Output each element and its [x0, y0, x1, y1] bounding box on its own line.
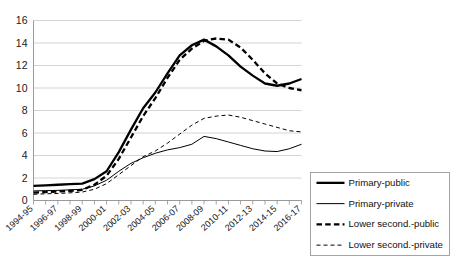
- series-line-primary-public: [34, 40, 302, 186]
- y-axis-tick-label: 4: [22, 149, 28, 161]
- y-axis-tick-label: 2: [22, 172, 28, 184]
- y-axis-tick-label: 16: [16, 14, 28, 26]
- y-axis-tick-label: 14: [16, 37, 28, 49]
- x-axis-tick-label: 2008-09: [174, 204, 205, 234]
- y-axis-tick-label: 12: [16, 59, 28, 71]
- legend-label: Primary-public: [349, 177, 411, 188]
- line-chart: 0246810121416 1994-951996-971998-992000-…: [0, 0, 453, 262]
- series-line-lower-second-private: [34, 115, 302, 194]
- gridlines-group: [34, 21, 302, 205]
- series-line-lower-second-public: [34, 39, 302, 193]
- y-axis-tick-label: 10: [16, 82, 28, 94]
- legend-label: Lower second.-private: [349, 239, 443, 250]
- x-axis-tick-label: 2016-17: [272, 204, 303, 234]
- chart-canvas: 0246810121416 1994-951996-971998-992000-…: [0, 0, 453, 262]
- legend-label: Primary-private: [349, 198, 414, 209]
- chart-legend: Primary-publicPrimary-privateLower secon…: [311, 173, 450, 256]
- series-group: [34, 39, 302, 195]
- legend-label: Lower second.-public: [349, 218, 440, 229]
- y-axis-labels-group: 0246810121416: [16, 14, 28, 206]
- x-axis-labels-group: 1994-951996-971998-992000-012002-032004-…: [4, 204, 303, 234]
- y-axis-tick-label: 6: [22, 127, 28, 139]
- series-line-primary-private: [34, 136, 302, 191]
- y-axis-tick-label: 8: [22, 104, 28, 116]
